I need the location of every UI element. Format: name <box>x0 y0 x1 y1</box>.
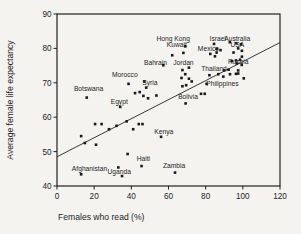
x-tick-label: 20 <box>90 192 100 201</box>
x-tick-label: 0 <box>55 192 60 201</box>
data-point <box>217 73 220 76</box>
country-labels: AfghanistanUgandaHaitiZambiaKenyaBotswan… <box>72 35 251 175</box>
data-point <box>181 85 184 88</box>
data-point <box>219 49 222 52</box>
country-label: Zambia <box>163 162 186 169</box>
country-label: Jordan <box>173 59 194 66</box>
data-point <box>241 50 244 53</box>
data-point-jordan <box>188 66 191 69</box>
x-tick-label: 40 <box>127 192 137 201</box>
y-tick-label: 80 <box>42 44 52 53</box>
x-axis-title: Females who read (%) <box>58 212 145 222</box>
data-point <box>100 123 103 126</box>
data-point <box>184 73 187 76</box>
y-axis-title: Average female life expectancy <box>5 40 15 160</box>
data-point-botswana <box>85 96 88 99</box>
x-tick-label: 60 <box>164 192 174 201</box>
data-point <box>108 128 111 131</box>
country-label: Bahrain <box>144 59 167 66</box>
data-point <box>171 54 174 57</box>
data-point <box>185 84 188 87</box>
scatter-figure: 020406080100120405060708090 AfghanistanU… <box>0 0 301 234</box>
x-tick-label: 100 <box>236 192 250 201</box>
data-point <box>227 68 230 71</box>
x-tick-label: 120 <box>273 192 287 201</box>
data-point <box>142 95 145 98</box>
country-label: Russia <box>228 58 249 65</box>
data-point <box>214 55 217 58</box>
y-tick-label: 60 <box>42 113 52 122</box>
data-point <box>94 123 97 126</box>
y-tick-label: 70 <box>42 79 52 88</box>
data-point-kuwait <box>182 52 185 55</box>
data-point <box>181 69 184 72</box>
scatter-plot-canvas: 020406080100120405060708090 AfghanistanU… <box>0 0 301 234</box>
data-point <box>155 94 158 97</box>
data-point <box>134 92 137 95</box>
data-point <box>235 73 238 76</box>
data-point <box>242 77 245 80</box>
data-point-mexico <box>209 53 212 56</box>
y-tick-label: 90 <box>42 10 52 19</box>
data-point <box>237 69 240 72</box>
data-point <box>203 93 206 96</box>
country-label: Kuwait <box>167 41 187 48</box>
country-label: Uganda <box>108 168 132 176</box>
country-label: USA <box>230 41 244 48</box>
data-point <box>229 73 232 76</box>
data-point <box>138 91 141 94</box>
country-label: Egypt <box>111 98 128 106</box>
data-point <box>141 123 144 126</box>
country-label: Bolivia <box>178 93 198 100</box>
data-point-egypt <box>119 106 122 109</box>
data-point-syria <box>145 86 148 89</box>
country-label: Mexico <box>198 45 219 52</box>
data-point <box>232 51 235 54</box>
data-point-haiti <box>140 165 143 168</box>
data-point <box>126 153 129 156</box>
data-point <box>132 128 135 131</box>
data-point-bolivia <box>184 102 187 105</box>
data-point <box>237 72 240 75</box>
country-label: Botswana <box>74 85 104 92</box>
data-point-zambia <box>174 171 177 174</box>
data-point <box>208 74 211 77</box>
data-point <box>115 125 118 128</box>
country-label: Morocco <box>112 71 138 78</box>
y-tick-label: 50 <box>42 148 52 157</box>
data-point <box>188 77 191 80</box>
country-label: Thailand <box>201 65 227 72</box>
data-point-afghanistan <box>80 173 83 176</box>
data-point <box>95 143 98 146</box>
y-tick-label: 40 <box>42 182 52 191</box>
country-label: Syria <box>142 79 158 87</box>
data-point <box>190 80 193 83</box>
data-point <box>125 120 128 123</box>
data-point <box>200 93 203 96</box>
data-point <box>222 75 225 78</box>
data-point <box>147 97 150 100</box>
data-point <box>84 142 87 145</box>
x-tick-label: 80 <box>201 192 211 201</box>
data-point <box>180 77 183 80</box>
data-point-morocco <box>127 83 130 86</box>
country-label: Afghanistan <box>72 165 108 173</box>
data-point <box>137 123 140 126</box>
data-point-kenya <box>160 136 163 139</box>
data-point <box>80 135 83 138</box>
data-point-uganda <box>121 175 124 178</box>
country-label: Kenya <box>154 128 173 136</box>
axis-titles: Females who read (%)Average female life … <box>5 40 145 222</box>
country-label: Haiti <box>137 155 151 162</box>
country-label: Philippines <box>206 80 239 88</box>
